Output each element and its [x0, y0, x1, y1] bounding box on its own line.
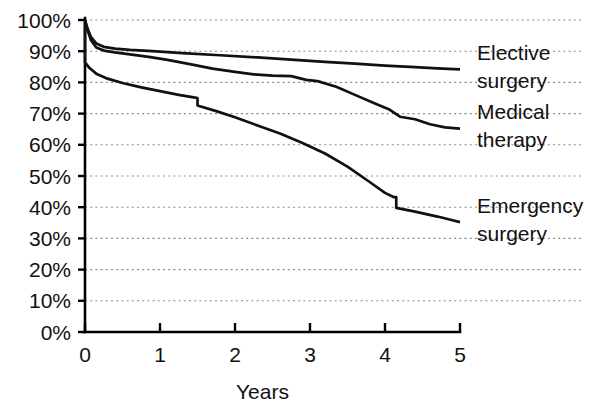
y-tick-label-100: 100%	[17, 9, 71, 32]
x-tick-label-1: 1	[154, 343, 166, 366]
series-curve-elective-surgery	[85, 20, 460, 69]
x-tick-label-3: 3	[304, 343, 316, 366]
series-label-emergency-surgery-line-1: surgery	[477, 222, 548, 245]
y-tick-label-90: 90%	[29, 40, 71, 63]
data-series-curves	[85, 20, 460, 222]
series-labels: ElectivesurgeryMedicaltherapyEmergencysu…	[477, 41, 584, 245]
y-tick-label-30: 30%	[29, 227, 71, 250]
y-tick-label-0: 0%	[41, 321, 71, 344]
series-label-medical-therapy-line-1: therapy	[477, 128, 548, 151]
y-tick-label-10: 10%	[29, 289, 71, 312]
y-tick-label-20: 20%	[29, 258, 71, 281]
y-tick-label-70: 70%	[29, 102, 71, 125]
x-axis-tick-labels: 012345	[79, 343, 466, 366]
series-label-elective-surgery-line-1: surgery	[477, 69, 548, 92]
y-tick-label-50: 50%	[29, 165, 71, 188]
x-axis-tick-marks	[85, 323, 460, 332]
x-axis-title: Years	[236, 380, 289, 403]
chart-canvas: 0%10%20%30%40%50%60%70%80%90%100% 012345…	[0, 0, 598, 405]
x-tick-label-4: 4	[379, 343, 391, 366]
y-tick-label-80: 80%	[29, 71, 71, 94]
survival-chart: 0%10%20%30%40%50%60%70%80%90%100% 012345…	[0, 0, 598, 405]
x-tick-label-5: 5	[454, 343, 466, 366]
y-tick-label-60: 60%	[29, 133, 71, 156]
series-label-elective-surgery-line-0: Elective	[477, 41, 551, 64]
series-label-emergency-surgery-line-0: Emergency	[477, 194, 584, 217]
series-label-medical-therapy-line-0: Medical	[477, 100, 549, 123]
x-tick-label-2: 2	[229, 343, 241, 366]
x-tick-label-0: 0	[79, 343, 91, 366]
y-axis-tick-labels: 0%10%20%30%40%50%60%70%80%90%100%	[17, 9, 71, 344]
series-curve-medical-therapy	[85, 20, 460, 129]
y-tick-label-40: 40%	[29, 196, 71, 219]
